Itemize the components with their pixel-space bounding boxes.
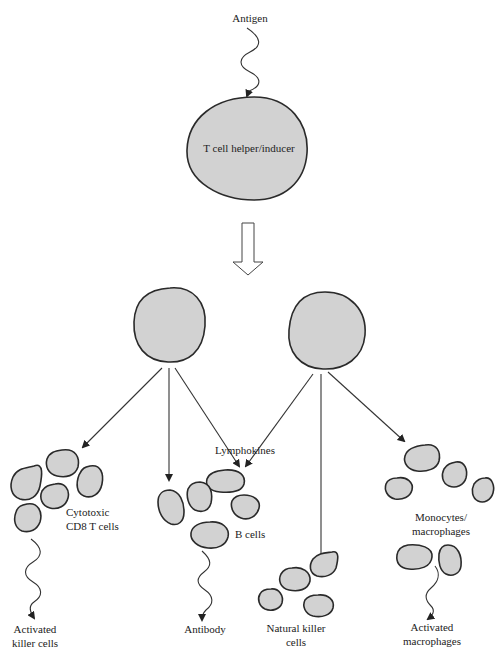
activated-macro-label-2: macrophages bbox=[403, 635, 461, 647]
helper-label: T cell helper/inducer bbox=[203, 142, 295, 154]
nk-cluster bbox=[259, 552, 338, 617]
daughter-cell-right bbox=[289, 292, 365, 369]
activated-killer-label-1: Activated bbox=[14, 623, 57, 635]
lymphokines-label: Lymphokines bbox=[215, 444, 275, 456]
monocytes-label-2: macrophages bbox=[412, 525, 470, 537]
antigen-label: Antigen bbox=[232, 12, 268, 24]
monocytes-wavy-arrow bbox=[426, 566, 438, 619]
arrow-to-monocytes bbox=[328, 372, 404, 441]
daughter-cell-left bbox=[134, 288, 205, 362]
immune-diagram: Antigen T cell helper/inducer Lymphokine… bbox=[0, 0, 503, 654]
cytotoxic-label-2: CD8 T cells bbox=[66, 520, 119, 532]
antigen-wavy-arrow bbox=[241, 28, 259, 96]
antibody-label: Antibody bbox=[184, 623, 226, 635]
hollow-down-arrow bbox=[233, 223, 263, 275]
activated-macro-label-1: Activated bbox=[411, 621, 454, 633]
cytotoxic-label-1: Cytotoxic bbox=[66, 506, 110, 518]
bcells-label: B cells bbox=[235, 528, 265, 540]
arrow-to-cytotoxic bbox=[83, 368, 162, 447]
nk-label-1: Natural killer bbox=[267, 622, 326, 634]
bcells-wavy-arrow bbox=[198, 551, 212, 620]
nk-label-2: cells bbox=[286, 636, 306, 648]
monocytes-label-1: Monocytes/ bbox=[415, 511, 468, 523]
monocytes-cluster bbox=[385, 445, 493, 502]
activated-killer-label-2: killer cells bbox=[12, 637, 58, 649]
macrophages-pair bbox=[397, 545, 461, 575]
cytotoxic-wavy-arrow bbox=[26, 539, 41, 618]
